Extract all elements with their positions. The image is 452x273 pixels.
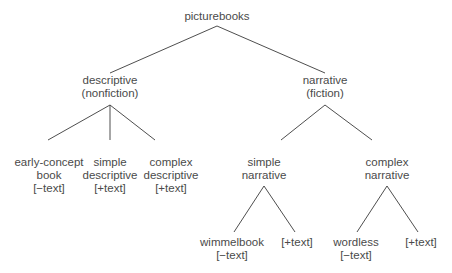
node-complex-descriptive: complex descriptive [+text] [144, 156, 199, 195]
node-descriptive: descriptive (nonfiction) [82, 74, 139, 100]
node-wordless: wordless [−text] [333, 236, 378, 262]
node-label: complex [144, 156, 199, 169]
node-feature: [−text] [200, 249, 264, 262]
node-simple-descriptive: simple descriptive [+text] [83, 156, 138, 195]
edge-narrative-simple [281, 105, 325, 140]
node-label: narrative [365, 169, 410, 182]
node-label: simple [242, 156, 287, 169]
node-sublabel: (nonfiction) [82, 87, 139, 100]
node-label: descriptive [83, 169, 138, 182]
node-label: picturebooks [184, 10, 249, 23]
node-label: narrative [242, 169, 287, 182]
node-feature: [+text] [144, 182, 199, 195]
node-feature: [−text] [333, 249, 378, 262]
node-early-concept-book: early-concept book [−text] [14, 156, 83, 195]
edge-complex-narrative-plustext [387, 186, 418, 232]
tree-edges [0, 0, 452, 273]
node-narrative: narrative (fiction) [303, 74, 348, 100]
node-label: simple [83, 156, 138, 169]
node-feature: [−text] [14, 182, 83, 195]
node-simple-narrative: simple narrative [242, 156, 287, 182]
node-label: wimmelbook [200, 236, 264, 249]
node-picturebooks: picturebooks [184, 10, 249, 23]
node-label: descriptive [82, 74, 139, 87]
node-complex-narrative: complex narrative [365, 156, 410, 182]
edge-descriptive-complex [110, 105, 155, 140]
edge-complex-narrative-wordless [357, 186, 387, 232]
node-label: narrative [303, 74, 348, 87]
node-simple-narrative-plustext: [+text] [281, 236, 313, 249]
node-label: early-concept [14, 156, 83, 169]
edge-simple-narrative-plustext [264, 186, 295, 232]
edge-root-narrative [217, 26, 325, 73]
node-wimmelbook: wimmelbook [−text] [200, 236, 264, 262]
node-feature: [+text] [405, 236, 437, 249]
node-label: wordless [333, 236, 378, 249]
edge-narrative-complex [325, 105, 372, 140]
edge-descriptive-early-concept [48, 105, 110, 140]
node-label: book [14, 169, 83, 182]
node-label: descriptive [144, 169, 199, 182]
node-feature: [+text] [83, 182, 138, 195]
edge-simple-narrative-wimmelbook [234, 186, 264, 232]
node-feature: [+text] [281, 236, 313, 249]
node-sublabel: (fiction) [303, 87, 348, 100]
edge-root-descriptive [110, 26, 217, 73]
node-complex-narrative-plustext: [+text] [405, 236, 437, 249]
node-label: complex [365, 156, 410, 169]
